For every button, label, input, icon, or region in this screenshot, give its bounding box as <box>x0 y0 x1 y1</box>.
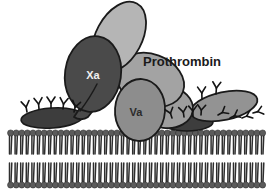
factor-xa-label: Xa <box>86 69 100 81</box>
prothrombin-label: Prothrombin <box>143 54 221 69</box>
prothrombinase-complex-diagram: Prothrombin Xa Va <box>0 0 271 192</box>
figure-canvas: Prothrombin Xa Va <box>0 0 271 192</box>
factor-va-label: Va <box>130 106 144 118</box>
